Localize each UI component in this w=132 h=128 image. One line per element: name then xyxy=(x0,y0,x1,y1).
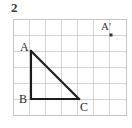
point-label-a-prime: A' xyxy=(101,20,111,32)
coordinate-grid-figure xyxy=(0,0,132,128)
point-marker-a-prime xyxy=(110,34,113,37)
triangle-abc xyxy=(31,51,79,99)
geometry-figure-panel: 2 A B C A' xyxy=(0,0,132,128)
triangle-edge-ca xyxy=(31,51,79,99)
vertex-label-a: A xyxy=(20,41,29,53)
vertex-label-b: B xyxy=(19,93,27,105)
vertex-label-c: C xyxy=(80,101,88,113)
